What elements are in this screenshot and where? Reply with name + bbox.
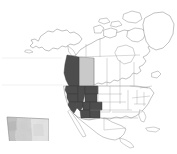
region-aleutians (25, 50, 33, 53)
highlight-arizona (80, 110, 90, 118)
inset-raster-fill (3, 58, 49, 141)
region-victoria-island (104, 28, 117, 38)
highlight-alberta (79, 57, 94, 86)
region-alaska (30, 29, 82, 51)
highlight-wyoming (85, 94, 97, 102)
region-banks-island (94, 25, 104, 33)
alberta-inset-map (3, 58, 49, 141)
region-newfoundland (152, 71, 161, 78)
locator-map-figure: Alberta (0, 0, 177, 154)
region-florida-peninsula (139, 110, 146, 122)
region-arctic-islet-b (99, 18, 110, 24)
highlight-montana (85, 86, 98, 94)
region-alaska-panhandle (68, 46, 76, 56)
highlight-oregon (67, 94, 78, 102)
inset-zone-patch-a (8, 121, 17, 131)
inset-zone-patch-b (33, 124, 44, 136)
region-arctic-islet-a (111, 21, 122, 27)
region-central-america (120, 138, 134, 148)
highlight-british-columbia (64, 55, 79, 86)
highlight-utah (83, 102, 90, 110)
region-ellesmere-island (123, 11, 142, 23)
highlight-light-group (79, 57, 94, 86)
highlight-new-mexico (90, 110, 100, 118)
highlight-washington (65, 86, 78, 94)
inset-zone-central (15, 118, 33, 141)
highlight-colorado (90, 102, 102, 110)
region-caribbean-islands (146, 127, 160, 132)
